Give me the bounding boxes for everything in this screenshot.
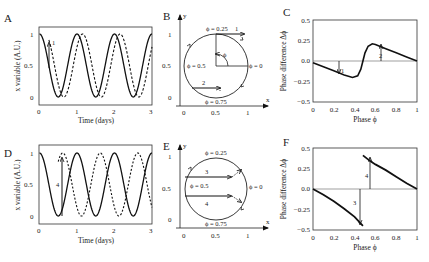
x-ticks: 0 1 2 3 xyxy=(37,227,153,235)
svg-text:0.2: 0.2 xyxy=(330,234,339,242)
svg-text:2: 2 xyxy=(112,108,116,116)
svg-text:0.2: 0.2 xyxy=(330,106,339,114)
svg-text:0: 0 xyxy=(37,108,41,116)
svg-text:1: 1 xyxy=(415,234,419,242)
svg-text:0.5: 0.5 xyxy=(162,62,171,70)
phase-label-05: ϕ = 0.5 xyxy=(187,62,205,69)
panel-label: D xyxy=(4,147,12,159)
svg-text:4: 4 xyxy=(205,200,209,207)
y-ticks: 0.5 0.25 0.0 −0.25 −0.5 xyxy=(294,145,311,234)
svg-text:−0.5: −0.5 xyxy=(297,98,310,106)
svg-text:0.0: 0.0 xyxy=(301,57,310,65)
annotation: 1 xyxy=(52,39,55,46)
limit-cycle xyxy=(185,158,247,220)
annotation: 4 xyxy=(56,181,60,188)
svg-text:−0.25: −0.25 xyxy=(294,206,311,214)
panel-label: B xyxy=(163,10,170,22)
y-ticks: 1 0.5 0 xyxy=(24,31,34,102)
svg-text:0.4: 0.4 xyxy=(351,106,360,114)
phi-angle-label: ϕ xyxy=(223,51,227,58)
svg-text:1: 1 xyxy=(246,232,250,240)
svg-text:0.25: 0.25 xyxy=(298,37,311,45)
prc-branch-2 xyxy=(363,155,417,189)
svg-text:−0.25: −0.25 xyxy=(294,78,311,86)
phase-label-0: ϕ = 0 xyxy=(249,183,263,190)
svg-text:0.4: 0.4 xyxy=(351,234,360,242)
svg-text:1: 1 xyxy=(246,109,250,117)
svg-text:0.5: 0.5 xyxy=(211,109,220,117)
svg-text:x: x xyxy=(266,96,270,104)
x-axis-label: Time (days) xyxy=(78,236,115,245)
phase-label-075: ϕ = 0.75 xyxy=(205,98,227,105)
svg-text:1: 1 xyxy=(30,31,34,39)
x-axis-label: Time (days) xyxy=(78,116,115,125)
svg-text:0.5: 0.5 xyxy=(24,181,33,189)
svg-text:0.6: 0.6 xyxy=(371,234,380,242)
panel-e: E y x ϕ = 0.25 ϕ = 0.5 ϕ = 0 ϕ = 0.75 3 … xyxy=(162,140,270,240)
solid-curve xyxy=(40,34,153,97)
svg-text:0.5: 0.5 xyxy=(24,62,33,70)
svg-text:1: 1 xyxy=(168,153,172,161)
svg-text:1: 1 xyxy=(75,227,79,235)
prc-branch-1 xyxy=(313,189,363,226)
phase-label-025: ϕ = 0.25 xyxy=(206,25,228,32)
svg-text:0: 0 xyxy=(182,232,186,240)
y-axis-label: Phase difference Δϕ xyxy=(279,31,288,91)
svg-text:0: 0 xyxy=(168,216,172,224)
svg-text:1: 1 xyxy=(341,67,344,74)
phase-response-curve xyxy=(313,44,417,78)
svg-text:0.5: 0.5 xyxy=(301,17,310,25)
svg-text:3: 3 xyxy=(353,199,356,206)
svg-text:0: 0 xyxy=(37,227,41,235)
x-axis-label: Phase ϕ xyxy=(353,115,376,124)
svg-text:1: 1 xyxy=(415,106,419,114)
panel-d: D 4 1 0.5 0 0 1 2 3 Time (days) x variab… xyxy=(4,145,153,245)
svg-text:1: 1 xyxy=(168,31,172,39)
panel-c: C 1 2 0.5 0.25 0.0 −0.25 −0.5 0 0.2 0.4 … xyxy=(279,6,419,124)
svg-text:2: 2 xyxy=(202,79,205,86)
x-ticks: 0 1 2 3 xyxy=(37,108,153,116)
y-ticks: 0.5 0.25 0.0 −0.25 −0.5 xyxy=(294,17,311,106)
y-axis-label: x variable (A.U.) xyxy=(13,159,22,211)
panel-label: F xyxy=(283,136,289,148)
svg-text:0: 0 xyxy=(311,106,315,114)
svg-text:y: y xyxy=(183,142,187,150)
svg-text:0.8: 0.8 xyxy=(392,106,401,114)
svg-text:1: 1 xyxy=(235,25,238,32)
svg-text:2: 2 xyxy=(379,52,382,59)
svg-text:0.5: 0.5 xyxy=(162,185,171,193)
svg-text:0: 0 xyxy=(30,94,34,102)
svg-text:3: 3 xyxy=(149,108,153,116)
svg-text:0.5: 0.5 xyxy=(301,145,310,153)
phase-label-075: ϕ = 0.75 xyxy=(205,220,227,227)
svg-text:4: 4 xyxy=(365,172,369,179)
panel-f: F 3 4 0.5 0.25 0.0 −0.25 −0.5 0 0.2 0.4 … xyxy=(279,136,419,252)
svg-text:1: 1 xyxy=(75,108,79,116)
svg-text:2: 2 xyxy=(112,227,116,235)
svg-text:−0.5: −0.5 xyxy=(297,226,310,234)
svg-text:0.5: 0.5 xyxy=(211,232,220,240)
panel-label: A xyxy=(4,12,12,24)
svg-text:0: 0 xyxy=(311,234,315,242)
x-ticks: 0 0.2 0.4 0.6 0.8 1 xyxy=(311,234,419,242)
svg-text:y: y xyxy=(183,12,187,20)
figure: A 1 1 0.5 0 0 1 2 3 Time (days) x variab… xyxy=(0,0,429,262)
panel-label: C xyxy=(283,6,290,18)
phase-label-05: ϕ = 0.5 xyxy=(190,182,208,189)
phase-label-025: ϕ = 0.25 xyxy=(205,149,227,156)
x-axis-label: Phase ϕ xyxy=(353,243,376,252)
panel-label: E xyxy=(163,140,170,152)
svg-text:0: 0 xyxy=(182,109,186,117)
svg-text:0.25: 0.25 xyxy=(298,165,311,173)
svg-text:0: 0 xyxy=(168,94,172,102)
svg-text:3: 3 xyxy=(149,227,153,235)
panel-a: A 1 1 0.5 0 0 1 2 3 Time (days) x variab… xyxy=(4,12,153,125)
svg-text:3: 3 xyxy=(205,168,208,175)
svg-text:0.0: 0.0 xyxy=(301,185,310,193)
svg-text:x: x xyxy=(266,218,270,226)
y-axis-label: x variable (A.U.) xyxy=(13,40,22,92)
x-ticks: 0 0.2 0.4 0.6 0.8 1 xyxy=(311,106,419,114)
panel-b: B y x ϕ ϕ = 0.25 ϕ = 0.5 ϕ = 0 ϕ = 0.75 … xyxy=(162,10,270,117)
y-axis-label: Phase difference Δϕ xyxy=(279,159,288,219)
svg-text:1: 1 xyxy=(30,150,34,158)
